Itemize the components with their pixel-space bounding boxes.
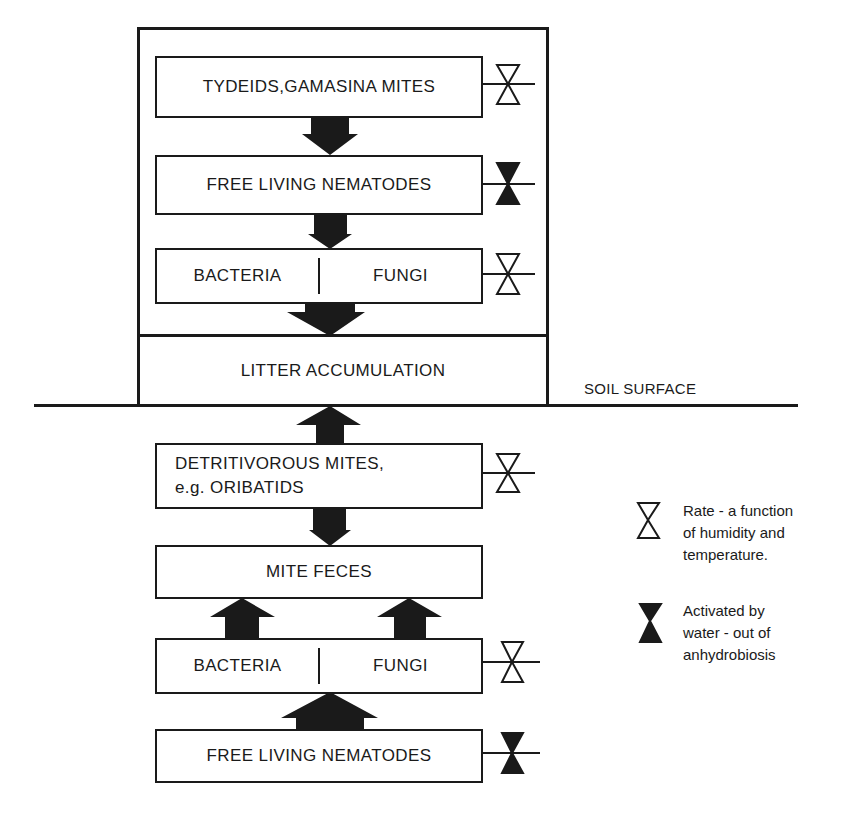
arrow-down-icon <box>309 508 351 546</box>
legend-hourglass-outline-icon <box>638 503 659 538</box>
arrow-up-icon <box>377 598 442 639</box>
arrow-up-icon <box>281 692 378 730</box>
arrow-up-icon <box>210 598 275 639</box>
arrow-down-icon <box>287 303 365 336</box>
legend-hourglass-filled-icon <box>640 604 661 642</box>
arrow-up-icon <box>296 406 361 444</box>
arrow-down-icon <box>302 117 358 155</box>
legend-activated-text: Activated by water - out of anhydrobiosi… <box>683 600 776 666</box>
legend-rate-text: Rate - a function of humidity and temper… <box>683 500 793 566</box>
arrow-down-icon <box>308 214 352 249</box>
flow-arrows <box>0 0 860 818</box>
